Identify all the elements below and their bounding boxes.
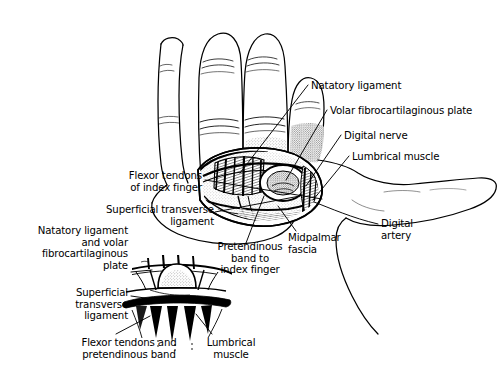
label-digital-artery: Digital artery [381,218,433,241]
label-superficial-transverse-ligament-main: Superficial transverse ligament [90,204,214,227]
label-flexor-tendons-pretendinous-band: Flexor tendons and pretendinous band [66,337,192,360]
label-natatory-and-volar-plate: Natatory ligament and volar fibrocartila… [8,225,128,271]
label-superficial-transverse-ligament-inset: Superficial transverse ligament [26,287,128,322]
label-digital-nerve: Digital nerve [344,130,444,142]
anatomical-figure: Natatory ligament Volar fibrocartilagino… [0,0,503,374]
label-natatory-ligament: Natatory ligament [311,80,441,92]
label-lumbrical-muscle-inset: Lumbrical muscle [194,337,268,360]
label-lumbrical-muscle-main: Lumbrical muscle [352,151,472,163]
label-pretendinous-band-index-finger: Pretendinous band to index finger [208,241,292,276]
label-midpalmar-fascia: Midpalmar fascia [288,232,352,255]
label-volar-fibrocartilaginous-plate: Volar fibrocartilaginous plate [330,105,503,117]
label-flexor-tendons-index-finger: Flexor tendons of index finger [110,170,202,193]
